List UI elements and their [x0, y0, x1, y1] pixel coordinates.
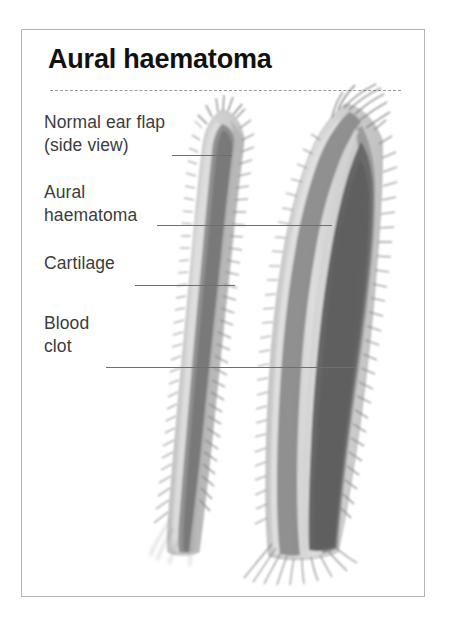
leader-normal-ear-flap	[172, 155, 232, 156]
page-title: Aural haematoma	[48, 44, 272, 75]
label-blood-clot: Blood clot	[44, 312, 89, 358]
leader-blood-clot	[106, 367, 356, 368]
leader-cartilage	[135, 285, 235, 286]
title-divider	[50, 90, 401, 91]
label-cartilage: Cartilage	[44, 252, 115, 275]
leader-aural-haematoma	[157, 225, 332, 226]
label-normal-ear-flap: Normal ear flap (side view)	[44, 111, 165, 157]
label-aural-haematoma: Aural haematoma	[44, 181, 137, 227]
illustration-figure: Aural haematoma	[0, 0, 449, 623]
